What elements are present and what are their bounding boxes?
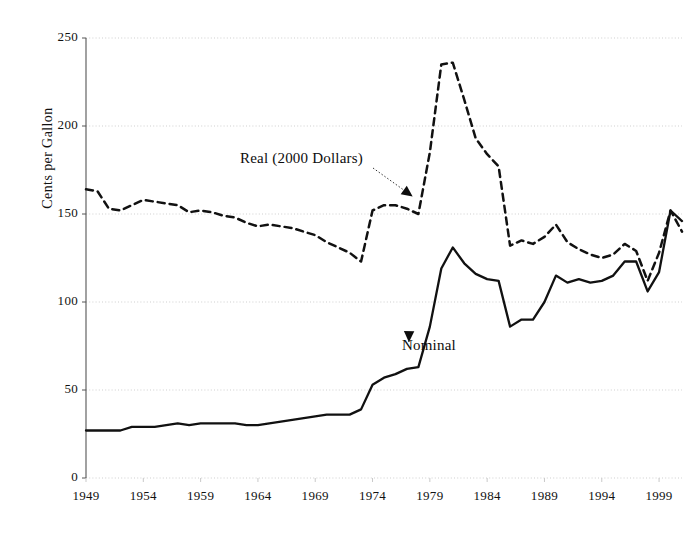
y-tick-label: 0 bbox=[34, 469, 78, 485]
axis-tickmarks bbox=[82, 38, 659, 482]
data-series-layer bbox=[86, 63, 682, 431]
x-tick-label: 1999 bbox=[633, 488, 685, 504]
y-tick-label: 200 bbox=[34, 117, 78, 133]
series-line-nominal bbox=[86, 210, 682, 430]
x-tick-label: 1949 bbox=[60, 488, 112, 504]
x-tick-label: 1959 bbox=[175, 488, 227, 504]
gridlines bbox=[86, 38, 682, 478]
x-tick-label: 1969 bbox=[289, 488, 341, 504]
y-tick-label: 150 bbox=[34, 205, 78, 221]
annotation-arrows bbox=[373, 168, 414, 342]
x-tick-label: 1989 bbox=[518, 488, 570, 504]
gasoline-price-chart: Cents per Gallon 250200150100500 1949195… bbox=[0, 0, 697, 534]
series-label-real: Real (2000 Dollars) bbox=[240, 150, 363, 167]
x-tick-label: 1974 bbox=[347, 488, 399, 504]
x-tick-label: 1964 bbox=[232, 488, 284, 504]
series-line-real bbox=[86, 63, 682, 281]
y-tick-label: 250 bbox=[34, 29, 78, 45]
series-label-nominal: Nominal bbox=[402, 337, 456, 354]
x-tick-label: 1994 bbox=[576, 488, 628, 504]
x-tick-label: 1979 bbox=[404, 488, 456, 504]
y-tick-label: 50 bbox=[34, 381, 78, 397]
chart-plot-area bbox=[0, 0, 697, 534]
y-tick-label: 100 bbox=[34, 293, 78, 309]
x-tick-label: 1954 bbox=[117, 488, 169, 504]
x-tick-label: 1984 bbox=[461, 488, 513, 504]
